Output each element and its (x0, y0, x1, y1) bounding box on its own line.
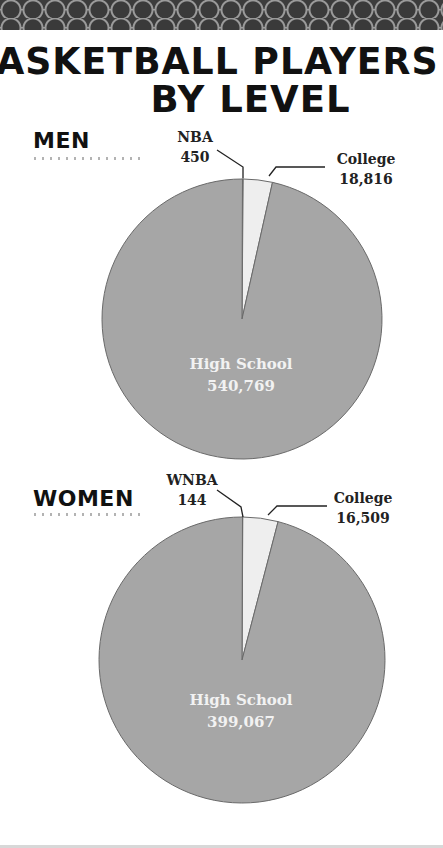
label-men-college-value: 18,816 (325, 169, 407, 189)
label-women-college-name: College (322, 488, 404, 508)
label-women-hs-name: High School (180, 689, 302, 711)
leader-line-nba (217, 150, 243, 178)
label-men-hs-name: High School (180, 353, 302, 375)
label-women-high-school: High School 399,067 (180, 689, 302, 733)
label-men-hs-value: 540,769 (180, 375, 302, 397)
label-women-college: College 16,509 (322, 488, 404, 528)
label-men-college: College 18,816 (325, 149, 407, 189)
pie-slice-high-school (99, 517, 385, 803)
label-nba-name: NBA (170, 127, 220, 147)
label-wnba-name: WNBA (160, 470, 224, 490)
leader-line-women-college (268, 506, 327, 515)
label-men-college-name: College (325, 149, 407, 169)
pie-slice-high-school (102, 179, 382, 459)
label-wnba: WNBA 144 (160, 470, 224, 510)
pie-chart-men (102, 179, 382, 459)
label-women-hs-value: 399,067 (180, 711, 302, 733)
leader-line-men-college (269, 167, 325, 176)
pie-chart-women (99, 517, 385, 803)
label-nba-value: 450 (170, 147, 220, 167)
label-nba: NBA 450 (170, 127, 220, 167)
label-wnba-value: 144 (160, 490, 224, 510)
label-men-high-school: High School 540,769 (180, 353, 302, 397)
label-women-college-value: 16,509 (322, 508, 404, 528)
